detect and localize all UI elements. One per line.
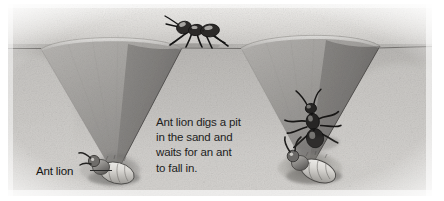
caption-line-1: Ant lion digs a pit [156, 115, 260, 130]
caption-line-3: waits for an ant [156, 145, 260, 160]
ant-lion-label: Ant lion [36, 164, 73, 178]
caption-line-2: in the sand and [156, 130, 260, 145]
caption-line-4: to fall in. [156, 161, 260, 176]
ant-lion-leader-line [90, 170, 112, 171]
caption-block: Ant lion digs a pit in the sand and wait… [156, 115, 260, 176]
illustration-scene: Ant lion digs a pit in the sand and wait… [0, 0, 444, 201]
